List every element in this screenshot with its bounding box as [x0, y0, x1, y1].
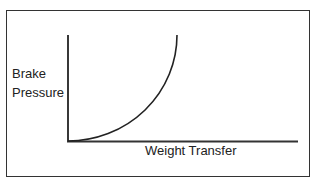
y-axis-label-line1: Brake [12, 66, 46, 81]
x-axis-label: Weight Transfer [145, 143, 237, 159]
y-axis-label-line2: Pressure [12, 85, 64, 100]
brake-pressure-curve [68, 35, 177, 141]
y-axis-label: Brake Pressure [12, 64, 64, 102]
